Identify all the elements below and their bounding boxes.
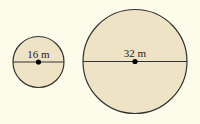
large-center-dot [132, 59, 137, 64]
small-circle: 16 m [13, 37, 64, 88]
circles-diagram: 16 m 32 m [0, 0, 200, 124]
small-center-dot [36, 59, 41, 64]
large-circle: 32 m [83, 10, 187, 114]
large-diameter-label: 32 m [124, 47, 147, 59]
small-diameter-label: 16 m [27, 48, 50, 60]
